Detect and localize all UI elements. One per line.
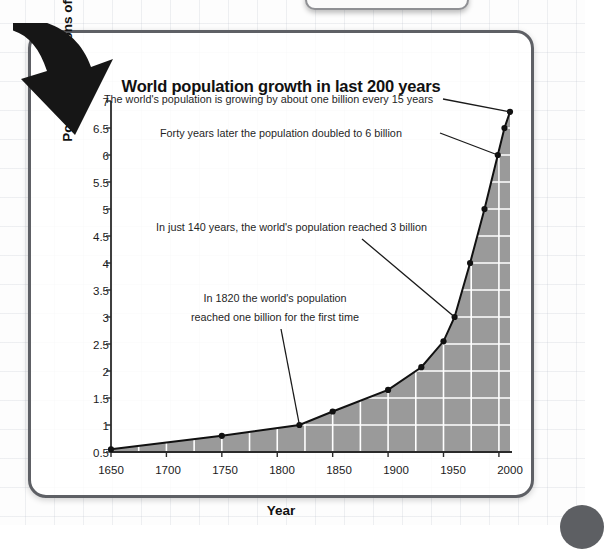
corner-dot-decoration (560, 505, 604, 549)
chart-panel: World population growth in last 200 year… (28, 30, 534, 498)
x-axis-label: Year (31, 503, 531, 518)
top-rounded-box-decoration (305, 0, 469, 10)
chart-plot-area (31, 33, 531, 495)
